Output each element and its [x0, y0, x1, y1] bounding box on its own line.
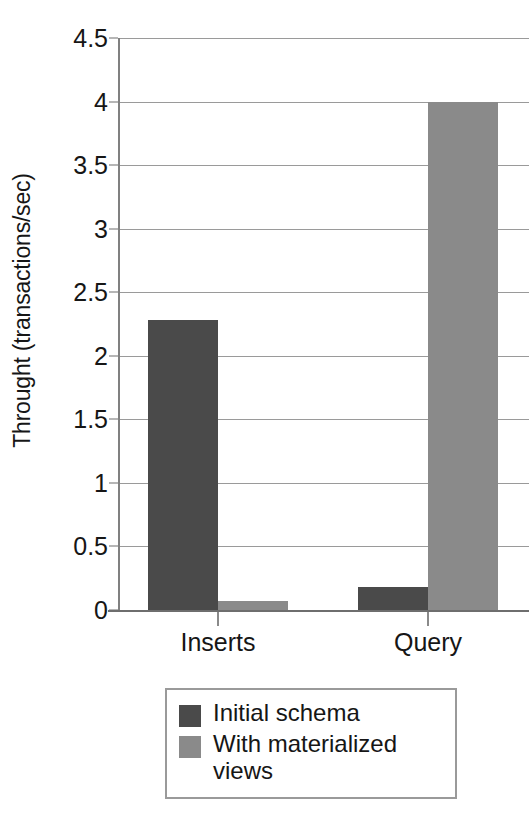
y-axis-title: Throught (transactions/sec): [0, 0, 44, 620]
y-axis-title-text: Throught (transactions/sec): [9, 173, 36, 448]
bar: [358, 587, 428, 610]
plot-area: [118, 38, 529, 610]
y-axis-tick-label: 4: [94, 89, 108, 114]
y-axis-tick-mark: [109, 38, 118, 39]
y-axis-tick-mark: [109, 101, 118, 102]
y-axis-tick-mark: [109, 165, 118, 166]
y-axis-tick-mark: [109, 482, 118, 483]
x-axis-tick-mark: [217, 612, 219, 626]
y-axis-tick-labels: 00.511.522.533.544.5: [44, 0, 118, 822]
y-axis-tick-label: 1.5: [73, 407, 108, 432]
chart-legend: Initial schemaWith materialized views: [165, 688, 457, 799]
x-axis-category-label: Inserts: [180, 628, 255, 657]
y-axis-tick-label: 3: [94, 216, 108, 241]
y-axis-tick-mark: [109, 419, 118, 420]
y-axis-tick-label: 2.5: [73, 280, 108, 305]
y-axis-tick-label: 1: [94, 470, 108, 495]
y-axis-tick-label: 0: [94, 598, 108, 623]
legend-item: Initial schema: [179, 700, 443, 727]
legend-swatch-icon: [179, 736, 201, 758]
y-axis-tick-label: 4.5: [73, 26, 108, 51]
legend-item-label: With materialized views: [213, 731, 443, 785]
y-axis-line: [118, 38, 120, 611]
x-axis-line: [108, 610, 529, 612]
legend-item: With materialized views: [179, 731, 443, 785]
y-axis-tick-mark: [109, 355, 118, 356]
bar: [218, 601, 288, 610]
bar: [148, 320, 218, 610]
x-axis-tick-mark: [427, 612, 429, 626]
gridline: [118, 38, 529, 39]
y-axis-tick-mark: [109, 292, 118, 293]
x-axis-category-label: Query: [394, 628, 462, 657]
bar-chart: Throught (transactions/sec) 00.511.522.5…: [0, 0, 529, 822]
y-axis-tick-label: 3.5: [73, 153, 108, 178]
y-axis-tick-label: 0.5: [73, 534, 108, 559]
y-axis-tick-label: 2: [94, 343, 108, 368]
bar: [428, 102, 498, 610]
y-axis-tick-mark: [109, 546, 118, 547]
y-axis-tick-mark: [109, 228, 118, 229]
legend-swatch-icon: [179, 705, 201, 727]
legend-item-label: Initial schema: [213, 700, 360, 727]
